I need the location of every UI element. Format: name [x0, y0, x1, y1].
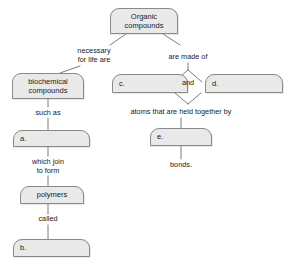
edge-organic-to-are-made	[163, 34, 180, 45]
concept-map-diagram: Organic compounds biochemical compounds …	[0, 0, 286, 273]
connector-label-atoms-held-together-by: atoms that are held together by	[110, 107, 252, 116]
connector-label-necessary-for-life-are: necessary for life are	[61, 46, 127, 64]
node-blank-a-label: a.	[20, 134, 26, 144]
edge-d-to-atoms	[188, 93, 201, 104]
connector-label-are-made-of: are made of	[157, 52, 219, 61]
node-blank-d-label: d.	[212, 79, 218, 89]
connector-label-and: and	[176, 78, 200, 87]
edge-organic-to-necessary	[110, 34, 126, 45]
node-biochemical-compounds-label: biochemical compounds	[13, 77, 83, 96]
node-blank-b-label: b.	[20, 243, 26, 253]
node-blank-e-label: e.	[157, 132, 163, 142]
connector-label-called: called	[22, 214, 74, 223]
connector-label-which-join-to-form: which join to form	[22, 157, 74, 175]
node-blank-c-label: c.	[119, 79, 125, 89]
node-blank-b[interactable]: b.	[13, 239, 90, 257]
edge-c-to-atoms	[175, 93, 188, 104]
node-polymers[interactable]: polymers	[20, 186, 84, 204]
node-blank-a[interactable]: a.	[13, 130, 90, 147]
edge-necessary-to-biochemical	[60, 66, 80, 73]
node-blank-e[interactable]: e.	[150, 128, 212, 146]
connector-label-such-as: such as	[22, 108, 74, 117]
connector-label-bonds: bonds.	[155, 160, 207, 169]
node-blank-d[interactable]: d.	[205, 74, 283, 93]
node-polymers-label: polymers	[37, 190, 67, 200]
node-biochemical-compounds[interactable]: biochemical compounds	[12, 73, 84, 99]
node-organic-compounds[interactable]: Organic compounds	[110, 8, 178, 34]
node-organic-compounds-label: Organic compounds	[111, 12, 177, 31]
